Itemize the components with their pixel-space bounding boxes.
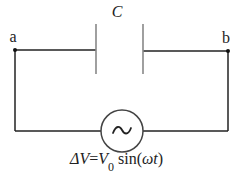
node-b-label: b	[222, 29, 230, 46]
formula-lhs: ΔV	[69, 150, 91, 167]
formula-func: sin(	[114, 150, 142, 168]
capacitor	[96, 24, 143, 74]
formula-close: )	[158, 150, 163, 168]
circuit-diagram: C a b ΔV=V0 sin(ωt)	[0, 0, 243, 187]
node-a-label: a	[9, 28, 16, 45]
ac-source	[101, 110, 143, 152]
source-formula: ΔV=V0 sin(ωt)	[69, 150, 163, 174]
formula-eq: =	[89, 150, 98, 167]
node-b-dot	[226, 49, 230, 53]
node-a-dot	[13, 48, 17, 52]
formula-omega: ω	[142, 150, 153, 167]
capacitor-label: C	[112, 3, 123, 20]
